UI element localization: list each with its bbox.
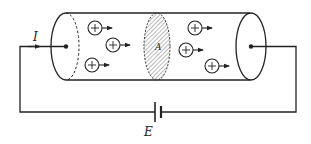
right-wire <box>161 47 296 113</box>
right-terminal-dot <box>249 44 253 48</box>
positive-charge <box>188 21 212 35</box>
cross-section-label: A <box>154 42 162 52</box>
left-wire <box>20 47 155 113</box>
left-terminal-dot <box>64 44 68 48</box>
positive-charge <box>88 21 112 35</box>
emf-label: E <box>143 125 153 139</box>
positive-charge <box>205 59 229 73</box>
positive-charge <box>179 43 203 57</box>
current-label: I <box>32 30 38 44</box>
conductor-circuit-diagram: A I E <box>0 0 311 144</box>
positive-charge <box>106 38 130 52</box>
battery-symbol <box>155 102 161 122</box>
cross-section-a: A <box>144 13 170 80</box>
positive-charge <box>85 58 109 72</box>
